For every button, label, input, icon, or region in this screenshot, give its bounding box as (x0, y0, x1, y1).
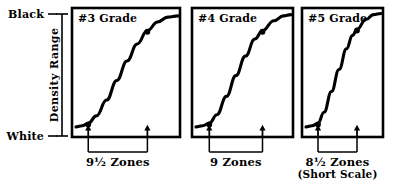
panel-frame-panel-grade-5 (302, 8, 383, 137)
axis-label-black: Black (8, 8, 44, 21)
panel-title-panel-grade-5: #5 Grade (308, 12, 367, 25)
axis-label-density-range: Density Range (48, 28, 61, 123)
zone-label-panel-grade-3: 9½ Zones (86, 155, 150, 169)
panel-title-panel-grade-3: #3 Grade (78, 12, 137, 25)
axis-label-white: White (5, 130, 44, 143)
zone-label-panel-grade-4: 9 Zones (210, 155, 262, 169)
figure-canvas: BlackWhiteDensity Range#3 Grade9½ Zones#… (0, 0, 398, 188)
zone-sublabel-panel-grade-5: (Short Scale) (297, 168, 377, 180)
panel-frame-panel-grade-3 (72, 8, 180, 137)
shoulder-marker-panel-grade-5 (354, 28, 360, 34)
characteristic-curve-figure: BlackWhiteDensity Range#3 Grade9½ Zones#… (0, 0, 398, 188)
panel-title-panel-grade-4: #4 Grade (198, 12, 257, 25)
panel-frame-panel-grade-4 (192, 8, 293, 137)
shoulder-marker-panel-grade-4 (260, 29, 266, 35)
zone-label-panel-grade-5: 8½ Zones (306, 155, 370, 169)
shoulder-marker-panel-grade-3 (145, 29, 151, 35)
